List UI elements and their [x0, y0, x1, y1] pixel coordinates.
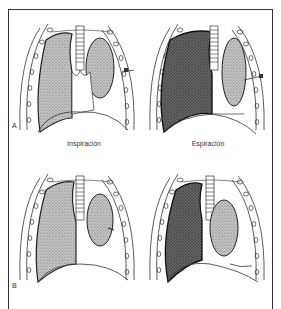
- caption-inspiration-a: Inspiración: [34, 140, 134, 147]
- panel-label-a: A: [12, 122, 17, 129]
- chest-diagram: [140, 10, 272, 135]
- panel-label-b: B: [12, 282, 17, 289]
- chest-diagram: [10, 10, 142, 135]
- chest-diagram: [140, 160, 272, 285]
- panel-b-inspiration: [10, 160, 142, 285]
- chest-diagram: [10, 160, 142, 285]
- panel-a-expiration: [140, 10, 272, 135]
- panel-a-inspiration: [10, 10, 142, 135]
- panel-b-expiration: [140, 160, 272, 285]
- caption-expiration-a: Espiración: [158, 140, 258, 147]
